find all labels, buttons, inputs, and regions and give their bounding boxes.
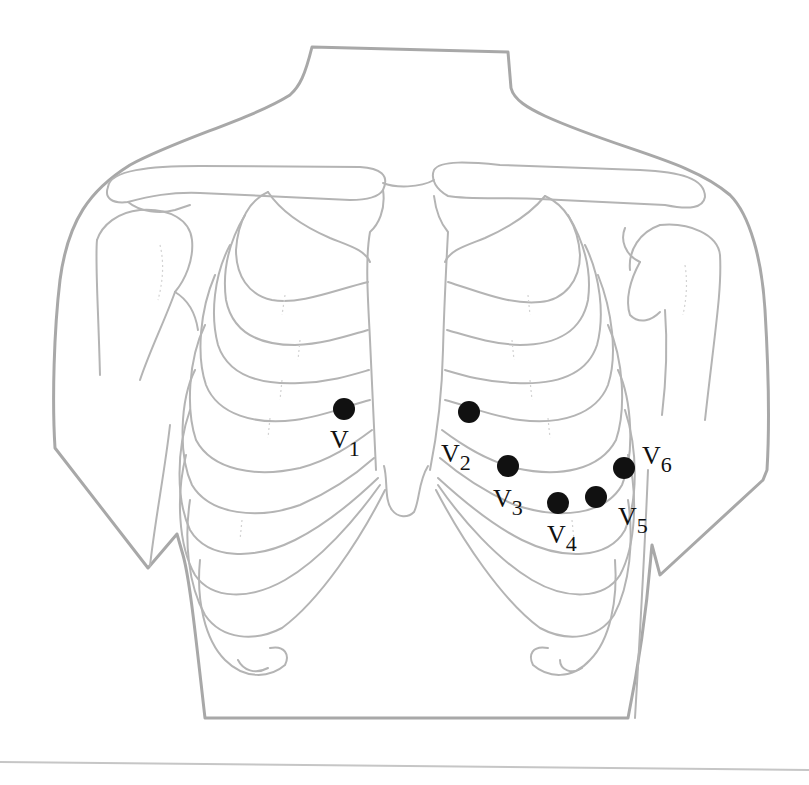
torso-outline [54,47,769,718]
clavicles [107,163,705,208]
label-v6: V6 [642,441,672,477]
page-divider [0,762,809,770]
left-ribcage [180,192,386,675]
electrode-v5 [585,486,607,508]
label-v3: V3 [493,484,523,520]
electrode-v6 [613,457,635,479]
electrode-v2 [458,401,480,423]
electrode-v1 [333,398,355,420]
right-shoulder [623,225,720,420]
electrode-v4 [547,492,569,514]
sternum [367,190,448,516]
electrode-v3 [497,455,519,477]
chest-diagram: V1 V2 V3 V4 V5 V6 [0,0,809,785]
